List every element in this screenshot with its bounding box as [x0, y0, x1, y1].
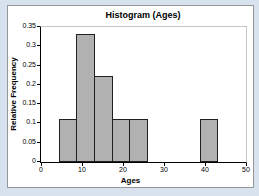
histogram-chart: Histogram (Ages) Relative Frequency 0.35… — [7, 5, 254, 188]
y-tick-mark — [37, 122, 40, 123]
histogram-bar — [76, 34, 95, 162]
y-tick-label: 0.2 — [8, 80, 36, 88]
y-tick-label: 0.25 — [8, 61, 36, 69]
bars-layer — [41, 27, 246, 162]
y-tick-mark — [37, 84, 40, 85]
page-background: Histogram (Ages) Relative Frequency 0.35… — [0, 0, 259, 196]
y-tick-label: 0.3 — [8, 41, 36, 49]
x-tick-mark — [82, 163, 83, 166]
x-tick-mark — [123, 163, 124, 166]
y-tick-label: 0.05 — [8, 138, 36, 146]
x-tick-label: 10 — [70, 166, 94, 174]
histogram-bar — [129, 119, 148, 162]
y-tick-mark — [37, 65, 40, 66]
y-tick-mark — [37, 103, 40, 104]
histogram-bar — [112, 119, 130, 162]
y-tick-label: 0.35 — [8, 22, 36, 30]
y-tick-mark — [37, 26, 40, 27]
plot-area — [40, 26, 247, 163]
y-tick-label: 0.1 — [8, 118, 36, 126]
x-tick-mark — [246, 163, 247, 166]
x-tick-label: 20 — [111, 166, 135, 174]
x-tick-label: 0 — [29, 166, 53, 174]
y-tick-mark — [37, 142, 40, 143]
x-tick-mark — [164, 163, 165, 166]
x-tick-mark — [205, 163, 206, 166]
histogram-bar — [59, 119, 77, 162]
y-tick-label: 0.15 — [8, 99, 36, 107]
chart-title: Histogram (Ages) — [40, 10, 246, 20]
x-tick-mark — [41, 163, 42, 166]
histogram-bar — [94, 76, 113, 162]
x-axis-title: Ages — [8, 176, 253, 185]
x-tick-label: 40 — [193, 166, 217, 174]
histogram-bar — [200, 119, 218, 162]
y-tick-mark — [37, 45, 40, 46]
y-tick-mark — [37, 161, 40, 162]
x-tick-label: 50 — [234, 166, 258, 174]
x-tick-label: 30 — [152, 166, 176, 174]
y-tick-label: 0 — [8, 157, 36, 165]
